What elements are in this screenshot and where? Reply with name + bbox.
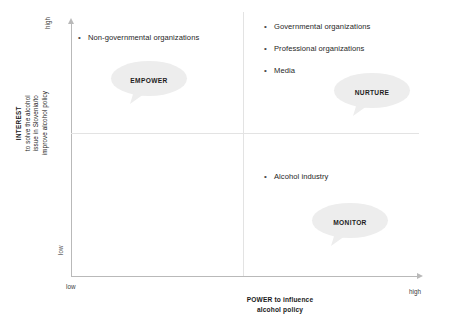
- y-axis-title-line-1: INTEREST: [15, 43, 24, 203]
- quadrant-divider-horizontal: [71, 133, 419, 134]
- quadrant-bubble-empower: EMPOWER: [110, 58, 188, 106]
- bullet-dot-icon: •: [78, 34, 88, 42]
- quadrant-bubble-label: EMPOWER: [110, 77, 188, 84]
- stakeholder-list-empower: • Non-governmental organizations: [78, 33, 199, 42]
- bullet-dot-icon: •: [264, 67, 274, 75]
- y-axis-tick-high: high: [44, 17, 51, 29]
- x-axis-arrow-icon: [417, 273, 423, 279]
- quadrant-bubble-monitor: MONITOR: [311, 200, 389, 248]
- list-item: • Governmental organizations: [264, 22, 370, 31]
- list-item: • Professional organizations: [264, 44, 370, 53]
- y-axis-arrow-icon: [68, 18, 74, 24]
- stakeholder-list-nurture: • Governmental organizations • Professio…: [264, 22, 370, 75]
- y-axis-title: INTEREST to solve the alcohol issue in S…: [15, 43, 49, 203]
- stakeholder-list-monitor: • Alcohol industry: [264, 172, 328, 181]
- y-axis-title-line-3: issue in Slovenia/to: [32, 43, 41, 203]
- y-axis-title-line-2: to solve the alcohol: [23, 43, 32, 203]
- x-axis-title-line-2: alcohol policy: [200, 305, 360, 315]
- y-axis-tick-low: low: [57, 246, 64, 255]
- y-axis-title-line-4: improve alcohol policy: [41, 43, 50, 203]
- x-axis-tick-low: low: [66, 283, 75, 290]
- stakeholder-label: Non-governmental organizations: [88, 33, 199, 42]
- x-axis-title-line-1: POWER to influence: [200, 295, 360, 305]
- quadrant-bubble-nurture: NURTURE: [333, 70, 411, 118]
- y-axis-line: [71, 24, 72, 277]
- stakeholder-label: Media: [274, 66, 295, 75]
- list-item: • Alcohol industry: [264, 172, 328, 181]
- bullet-dot-icon: •: [264, 173, 274, 181]
- quadrant-divider-vertical: [243, 12, 244, 276]
- stakeholder-label: Governmental organizations: [274, 22, 370, 31]
- stakeholder-label: Professional organizations: [274, 44, 364, 53]
- stakeholder-matrix-chart: INTEREST to solve the alcohol issue in S…: [0, 0, 455, 329]
- quadrant-bubble-label: MONITOR: [311, 219, 389, 226]
- x-axis-title: POWER to influence alcohol policy: [200, 295, 360, 314]
- x-axis-line: [71, 276, 419, 277]
- x-axis-tick-high: high: [409, 288, 421, 295]
- stakeholder-label: Alcohol industry: [274, 172, 328, 181]
- bullet-dot-icon: •: [264, 45, 274, 53]
- list-item: • Non-governmental organizations: [78, 33, 199, 42]
- bullet-dot-icon: •: [264, 23, 274, 31]
- quadrant-bubble-label: NURTURE: [333, 89, 411, 96]
